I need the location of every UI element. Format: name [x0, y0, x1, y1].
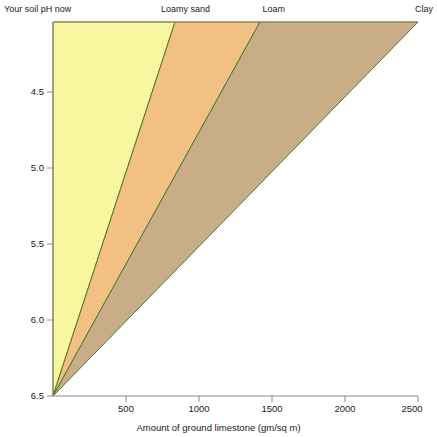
x-tick-label-2000: 2000: [315, 404, 375, 414]
y-tick-label-4.5: 4.5: [0, 87, 44, 97]
x-axis-title: Amount of ground limestone (gm/sq m): [0, 422, 437, 433]
annotation-your-soil-ph-now: Your soil pH now: [4, 4, 71, 15]
x-tick-label-2500: 2500: [388, 404, 436, 414]
chart-canvas: Your soil pH now Loamy sand Loam Clay 4.…: [0, 0, 437, 437]
annotation-clay: Clay: [340, 4, 433, 15]
chart-plot-svg: [0, 0, 437, 437]
x-tick-label-1000: 1000: [169, 404, 229, 414]
y-tick-label-6.5: 6.5: [0, 391, 44, 401]
y-tick-label-6.0: 6.0: [0, 315, 44, 325]
x-tick-label-500: 500: [96, 404, 156, 414]
y-tick-label-5.0: 5.0: [0, 163, 44, 173]
annotation-loam: Loam: [190, 4, 285, 15]
y-tick-label-5.5: 5.5: [0, 239, 44, 249]
x-tick-label-1500: 1500: [242, 404, 302, 414]
